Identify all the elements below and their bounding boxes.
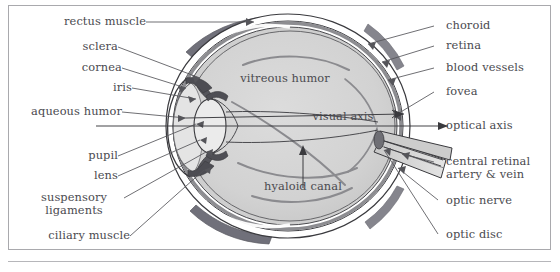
- label-retina: retina: [446, 39, 481, 52]
- label-sclera: sclera: [20, 40, 118, 53]
- label-cornea: cornea: [20, 61, 122, 74]
- optic-disc-shape: [374, 131, 384, 149]
- label-rectus-muscle: rectus muscle: [20, 15, 146, 28]
- label-vitreous-humor: vitreous humor: [225, 72, 345, 85]
- label-fovea: fovea: [446, 85, 478, 98]
- leader-ciliary-muscle: [130, 170, 204, 236]
- label-lens: lens: [20, 169, 118, 182]
- label-ciliary-muscle: ciliary muscle: [14, 229, 130, 242]
- label-pupil: pupil: [20, 149, 118, 162]
- eye-anatomy-figure: rectus muscle sclera cornea iris aqueous…: [0, 0, 560, 272]
- label-optical-axis: optical axis: [446, 119, 513, 132]
- label-choroid: choroid: [446, 19, 491, 32]
- label-suspensory-line2: ligaments: [24, 204, 124, 217]
- label-hyaloid-canal: hyaloid canal: [243, 180, 363, 193]
- label-central-retinal-artery-vein: central retinal artery & vein: [446, 155, 530, 181]
- label-visual-axis: visual axis: [300, 110, 386, 123]
- label-iris: iris: [20, 81, 132, 94]
- label-optic-disc: optic disc: [446, 228, 503, 241]
- label-central-retinal-line2: artery & vein: [446, 168, 530, 181]
- label-optic-nerve: optic nerve: [446, 194, 512, 207]
- label-suspensory-ligaments: suspensory ligaments: [24, 191, 124, 217]
- label-aqueous-humor: aqueous humor: [10, 105, 122, 118]
- label-blood-vessels: blood vessels: [446, 61, 524, 74]
